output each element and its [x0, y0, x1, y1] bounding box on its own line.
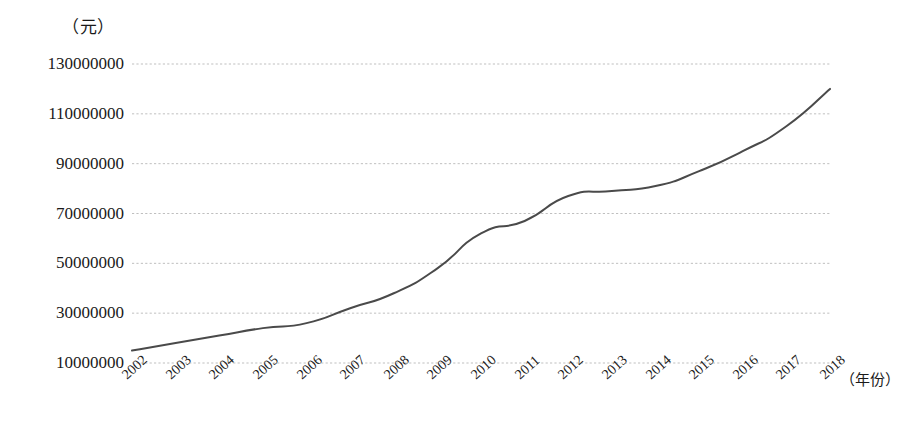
- y-axis-tick-label: 130000000: [4, 55, 124, 72]
- y-axis-tick-label: 30000000: [4, 304, 124, 321]
- y-axis-tick-label: 90000000: [4, 155, 124, 172]
- gridlines-group: [132, 64, 830, 363]
- line-chart: （元） 100000003000000050000000700000009000…: [0, 0, 921, 424]
- y-axis-tick-label: 10000000: [4, 354, 124, 371]
- data-series-line: [132, 89, 830, 351]
- y-axis-tick-label: 50000000: [4, 254, 124, 271]
- y-axis-tick-label: 70000000: [4, 205, 124, 222]
- y-axis-tick-label: 110000000: [4, 105, 124, 122]
- x-axis-title: （年份）: [840, 371, 900, 389]
